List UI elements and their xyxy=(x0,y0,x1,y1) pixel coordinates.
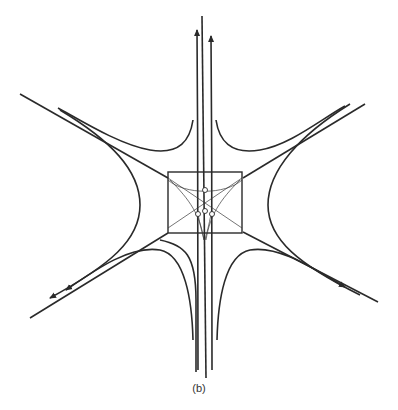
flow-diagram xyxy=(0,0,398,410)
circle-top xyxy=(203,188,208,193)
circle-left xyxy=(196,212,201,217)
upper-hyperbolas xyxy=(58,106,345,151)
circle-center xyxy=(203,209,208,214)
circle-right xyxy=(210,212,215,217)
figure-caption: (b) xyxy=(0,382,398,394)
